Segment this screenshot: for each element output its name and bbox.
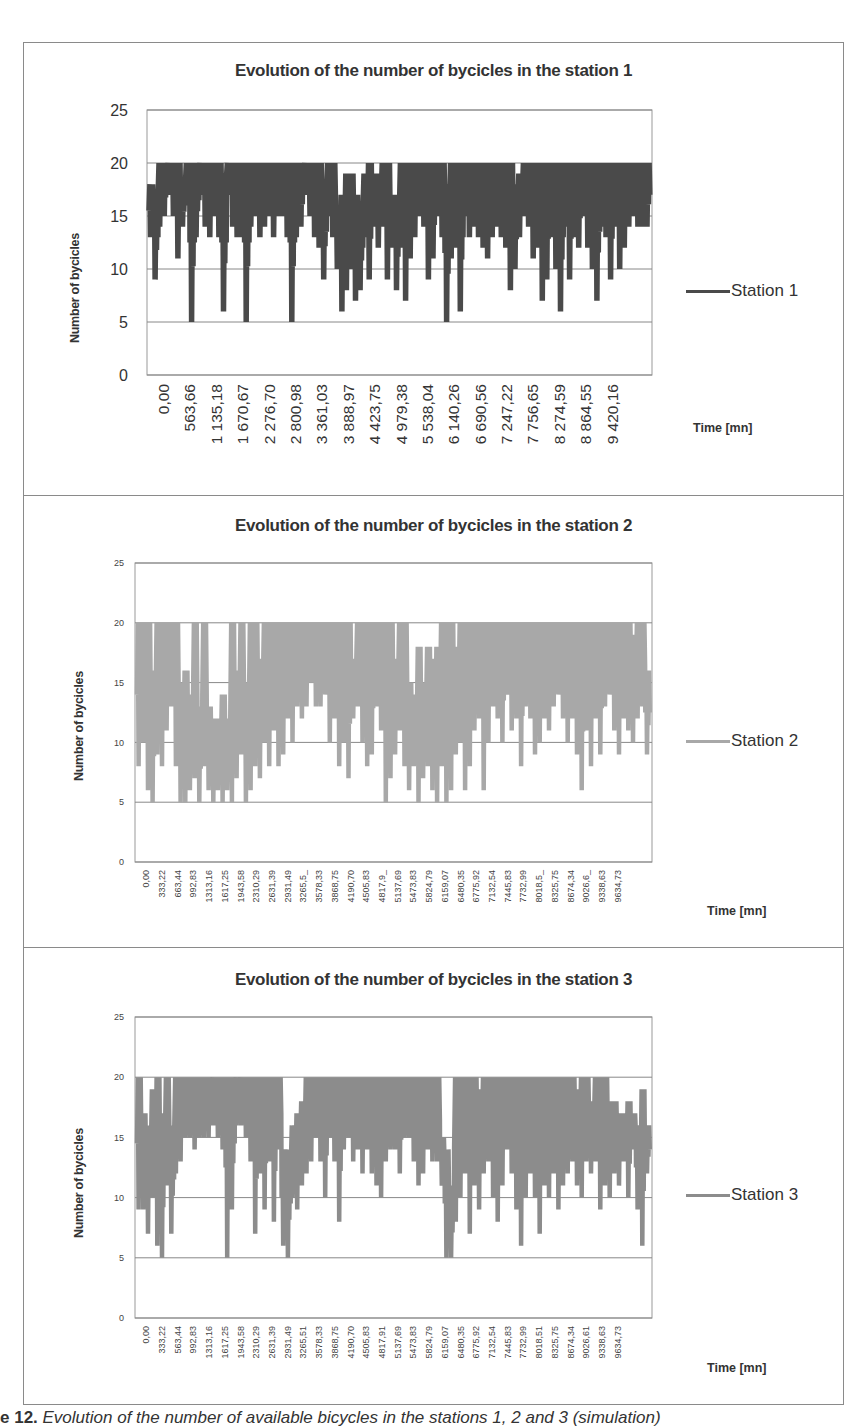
- x-tick-label: 6775,92: [471, 1326, 481, 1359]
- x-tick-label: 7445,83: [503, 1326, 513, 1359]
- y-tick-label: 0: [119, 1313, 124, 1323]
- x-tick-label: 6480,35: [456, 1326, 466, 1359]
- x-tick-label: 333,22: [157, 1326, 167, 1354]
- x-tick-label: 992,83: [188, 1326, 198, 1354]
- caption-prefix: e 12.: [0, 1408, 38, 1427]
- figure-caption: e 12. Evolution of the number of availab…: [0, 1408, 661, 1428]
- x-tick-label: 3265,51: [298, 1326, 308, 1359]
- x-tick-label: 5473,83: [408, 1326, 418, 1359]
- x-tick-label: 8018,51: [534, 1326, 544, 1359]
- x-tick-label: 563,44: [173, 1326, 183, 1354]
- x-tick-label: 2931,49: [283, 1326, 293, 1359]
- x-tick-label: 1943,58: [236, 1326, 246, 1359]
- y-tick-label: 25: [114, 1012, 124, 1022]
- caption-text: Evolution of the number of available bic…: [38, 1408, 661, 1427]
- x-tick-label: 4505,83: [361, 1326, 371, 1359]
- x-tick-label: 2310,29: [251, 1326, 261, 1359]
- plot-border: [135, 1017, 652, 1318]
- x-tick-label: 9026,61: [581, 1326, 591, 1359]
- x-tick-label: 8674,34: [566, 1326, 576, 1359]
- x-tick-label: 7132,54: [487, 1326, 497, 1359]
- x-tick-label: 7732,99: [518, 1326, 528, 1359]
- y-tick-label: 15: [114, 1133, 124, 1143]
- x-tick-label: 8325,75: [550, 1326, 560, 1359]
- x-tick-label: 1617,25: [220, 1326, 230, 1359]
- y-tick-label: 20: [114, 1072, 124, 1082]
- y-tick-label: 10: [114, 1193, 124, 1203]
- x-tick-label: 2631,39: [267, 1326, 277, 1359]
- y-tick-label: 5: [119, 1253, 124, 1263]
- series-line: [137, 1077, 650, 1258]
- x-tick-label: 6159,07: [440, 1326, 450, 1359]
- x-tick-label: 5824,79: [424, 1326, 434, 1359]
- x-tick-label: 0,00: [141, 1326, 151, 1344]
- x-tick-label: 1313,16: [204, 1326, 214, 1359]
- x-tick-label: 9338,63: [597, 1326, 607, 1359]
- x-tick-label: 9634,73: [613, 1326, 623, 1359]
- x-tick-label: 4817,91: [377, 1326, 387, 1359]
- x-tick-label: 4190,70: [346, 1326, 356, 1359]
- x-tick-label: 3578,33: [314, 1326, 324, 1359]
- x-tick-label: 5137,69: [393, 1326, 403, 1359]
- x-tick-label: 3868,75: [330, 1326, 340, 1359]
